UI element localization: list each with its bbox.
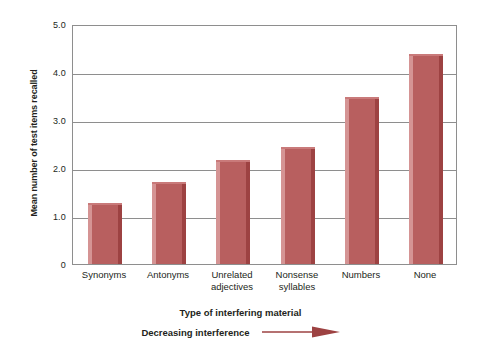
bar-right-shadow bbox=[246, 160, 250, 264]
bar bbox=[152, 182, 186, 264]
bar-right-shadow bbox=[375, 97, 379, 264]
x-axis-tick-label-line: None bbox=[382, 269, 468, 281]
bar-right-shadow bbox=[439, 54, 443, 264]
bar-top-highlight bbox=[409, 54, 443, 56]
bar bbox=[216, 160, 250, 264]
y-axis-tick-label: 4.0 bbox=[26, 68, 66, 78]
y-axis-tick-labels: 5.04.03.02.01.00 bbox=[22, 25, 66, 265]
x-axis-tick-labels: SynonymsAntonymsUnrelatedadjectivesNonse… bbox=[72, 269, 457, 303]
x-axis-title: Type of interfering material bbox=[0, 307, 481, 318]
bar-right-shadow bbox=[311, 147, 315, 264]
bar-right-shadow bbox=[118, 203, 122, 264]
y-axis-tick-label: 2.0 bbox=[26, 164, 66, 174]
bar bbox=[409, 54, 443, 264]
bar-top-highlight bbox=[345, 97, 379, 99]
bar-top-highlight bbox=[216, 160, 250, 162]
plot-area bbox=[72, 25, 457, 265]
gridline bbox=[73, 170, 456, 171]
gridline bbox=[73, 122, 456, 123]
x-axis-tick-label: None bbox=[382, 269, 468, 281]
bar-top-highlight bbox=[152, 182, 186, 184]
y-axis-tick-label: 0 bbox=[26, 260, 66, 270]
y-axis-tick-label: 1.0 bbox=[26, 212, 66, 222]
right-arrow-icon bbox=[262, 325, 340, 339]
bar-left-highlight bbox=[216, 160, 220, 264]
bar-left-highlight bbox=[152, 182, 156, 264]
annotation-row: Decreasing interference bbox=[0, 325, 481, 339]
x-axis-tick-label-line: syllables bbox=[254, 281, 340, 293]
bar bbox=[345, 97, 379, 264]
gridline bbox=[73, 218, 456, 219]
y-axis-tick-label: 3.0 bbox=[26, 116, 66, 126]
bar bbox=[281, 147, 315, 264]
bar-chart-figure: Mean number of test items recalled 5.04.… bbox=[0, 0, 481, 363]
bar-left-highlight bbox=[345, 97, 349, 264]
annotation-label: Decreasing interference bbox=[141, 327, 249, 338]
bar-left-highlight bbox=[409, 54, 413, 264]
bar-top-highlight bbox=[281, 147, 315, 149]
bar-left-highlight bbox=[281, 147, 285, 264]
gridline bbox=[73, 74, 456, 75]
bar-right-shadow bbox=[182, 182, 186, 264]
bar-top-highlight bbox=[88, 203, 122, 205]
y-axis-tick-label: 5.0 bbox=[26, 20, 66, 30]
bar bbox=[88, 203, 122, 264]
bar-left-highlight bbox=[88, 203, 92, 264]
